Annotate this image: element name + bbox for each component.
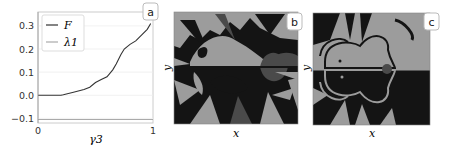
panel-label-c: c — [424, 13, 439, 30]
panel-b: y x b — [160, 0, 305, 147]
x-axis-label-b: x — [233, 127, 240, 140]
svg-text:b: b — [291, 16, 298, 29]
y-tick-label: 0.2 — [19, 44, 34, 55]
y-axis-label-c: y — [300, 64, 313, 72]
line-chart: −0.10.00.10.20.3 01 F λ1 γ3 a — [0, 0, 160, 147]
y-axis-label-b: y — [161, 64, 174, 72]
x-axis-label: γ3 — [89, 133, 103, 146]
x-tick-label: 0 — [35, 125, 41, 136]
y-tick-label: 0.1 — [19, 67, 34, 78]
y-ticks: −0.10.00.10.20.3 — [11, 20, 34, 124]
panel-c: y x c — [300, 0, 450, 147]
y-tick-label: 0.3 — [19, 20, 34, 31]
legend: F λ1 — [42, 15, 84, 51]
panel-a: −0.10.00.10.20.3 01 F λ1 γ3 a — [0, 0, 160, 147]
legend-label-lambda1: λ1 — [63, 36, 78, 49]
basin-map-c: y x c — [300, 0, 450, 147]
panel-label-a: a — [143, 3, 158, 20]
x-tick-label: 1 — [150, 125, 156, 136]
y-tick-label: −0.1 — [11, 113, 34, 124]
svg-text:c: c — [428, 16, 434, 29]
y-tick-label: 0.0 — [19, 90, 34, 101]
x-axis-label-c: x — [369, 127, 376, 140]
svg-text:a: a — [147, 6, 154, 19]
legend-label-f: F — [63, 19, 72, 32]
basin-map-b: y x b — [160, 0, 305, 147]
